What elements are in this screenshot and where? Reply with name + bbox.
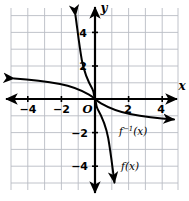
y-tick-label-4: 4	[79, 27, 87, 40]
x-tick-label--4: −4	[20, 103, 37, 116]
x-tick-label-2: 2	[124, 103, 132, 116]
f-inverse-suffix: (x)	[133, 125, 147, 137]
x-tick-label--2: −2	[53, 103, 70, 116]
curve-annotation-f: f(x)	[120, 160, 139, 172]
x-tick-label-4: 4	[157, 103, 165, 116]
origin-label: O	[82, 102, 92, 116]
curve-annotation-f-inverse: f−1(x)	[118, 125, 147, 137]
svg-text:f−1(x): f−1(x)	[118, 125, 147, 137]
x-axis-label: x	[177, 79, 186, 93]
coordinate-plane-figure: −4 −2 2 4 4 2 −2 −4 O y x f−1(x) f(x)	[0, 0, 189, 201]
y-tick-label--2: −2	[71, 127, 88, 140]
f-inverse-exponent: −1	[123, 125, 133, 133]
y-tick-label--4: −4	[71, 160, 88, 173]
y-tick-label-2: 2	[79, 60, 87, 73]
y-axis-label: y	[100, 1, 109, 15]
axis-lines	[6, 7, 177, 193]
